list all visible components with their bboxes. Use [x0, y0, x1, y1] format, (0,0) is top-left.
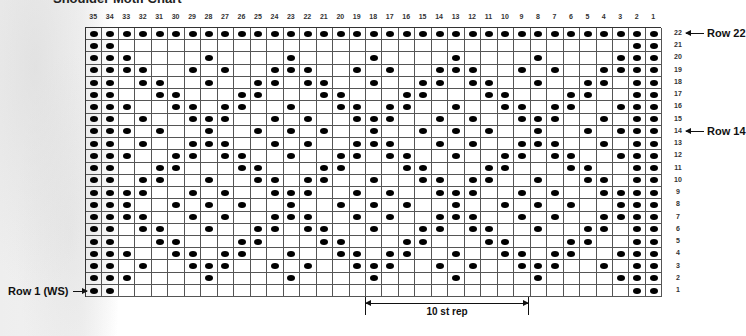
chart-cell: [580, 260, 596, 272]
chart-cell: [382, 212, 398, 224]
dot-icon: [106, 251, 114, 257]
chart-cell: [251, 28, 267, 40]
dot-icon: [287, 251, 295, 257]
chart-cell: [168, 114, 184, 126]
chart-cell: [498, 285, 514, 297]
chart-cell: [514, 248, 530, 260]
chart-cell: [415, 28, 431, 40]
dot-icon: [600, 67, 608, 73]
chart-cell: [415, 260, 431, 272]
chart-cell: [152, 28, 168, 40]
chart-cell: [432, 199, 448, 211]
chart-cell: [284, 187, 300, 199]
chart-cell: [514, 175, 530, 187]
chart-cell: [382, 114, 398, 126]
chart-cell: [317, 163, 333, 175]
chart-cell: [481, 187, 497, 199]
chart-cell: [350, 138, 366, 150]
row-14-callout: Row 14: [686, 125, 746, 137]
chart-cell: [86, 285, 102, 297]
dot-icon: [90, 165, 98, 171]
dot-icon: [304, 31, 312, 37]
dot-icon: [633, 288, 641, 294]
dot-icon: [205, 202, 213, 208]
chart-cell: [580, 175, 596, 187]
dot-icon: [205, 275, 213, 281]
chart-cell: [498, 77, 514, 89]
dot-icon: [633, 116, 641, 122]
chart-cell: [399, 248, 415, 260]
chart-cell: [547, 89, 563, 101]
chart-cell: [317, 150, 333, 162]
dot-icon: [518, 116, 526, 122]
chart-cell: [465, 236, 481, 248]
chart-cell: [481, 52, 497, 64]
chart-cell: [284, 224, 300, 236]
chart-cell: [613, 40, 629, 52]
dot-icon: [106, 202, 114, 208]
dot-icon: [304, 226, 312, 232]
chart-cell: [432, 138, 448, 150]
chart-cell: [234, 89, 250, 101]
chart-cell: [597, 28, 613, 40]
chart-cell: [135, 77, 151, 89]
dot-icon: [551, 141, 559, 147]
chart-cell: [267, 260, 283, 272]
dot-icon: [419, 226, 427, 232]
dot-icon: [139, 80, 147, 86]
chart-cell: [580, 248, 596, 260]
dot-icon: [123, 31, 131, 37]
dot-icon: [436, 177, 444, 183]
chart-cell: [218, 89, 234, 101]
chart-cell: [613, 260, 629, 272]
chart-cell: [350, 163, 366, 175]
dot-icon: [370, 177, 378, 183]
chart-cell: [366, 163, 382, 175]
chart-cell: [366, 187, 382, 199]
chart-cell: [201, 150, 217, 162]
chart-cell: [102, 199, 118, 211]
chart-cell: [564, 212, 580, 224]
chart-cell: [481, 65, 497, 77]
chart-cell: [201, 212, 217, 224]
row-number: 19: [670, 64, 686, 76]
dot-icon: [534, 263, 542, 269]
chart-cell: [300, 65, 316, 77]
chart-cell: [580, 77, 596, 89]
dot-icon: [106, 55, 114, 61]
dot-icon: [205, 55, 213, 61]
chart-cell: [415, 187, 431, 199]
chart-cell: [284, 89, 300, 101]
chart-cell: [86, 236, 102, 248]
chart-cell: [514, 273, 530, 285]
dot-icon: [90, 116, 98, 122]
dot-icon: [650, 31, 658, 37]
column-number: 11: [480, 13, 496, 20]
chart-cell: [317, 273, 333, 285]
dot-icon: [320, 92, 328, 98]
dot-icon: [567, 202, 575, 208]
chart-cell: [465, 260, 481, 272]
dot-icon: [650, 214, 658, 220]
chart-cell: [481, 175, 497, 187]
dot-icon: [469, 141, 477, 147]
dot-icon: [600, 214, 608, 220]
dot-icon: [650, 128, 658, 134]
column-number: 28: [200, 13, 216, 20]
dot-icon: [419, 177, 427, 183]
chart-cell: [597, 199, 613, 211]
chart-cell: [267, 126, 283, 138]
dot-icon: [551, 214, 559, 220]
chart-cell: [481, 199, 497, 211]
row-number: 22: [670, 27, 686, 39]
dot-icon: [90, 67, 98, 73]
knitting-chart-grid: [85, 27, 661, 297]
chart-cell: [498, 28, 514, 40]
column-number: 22: [299, 13, 315, 20]
chart-cell: [185, 273, 201, 285]
chart-cell: [415, 273, 431, 285]
chart-cell: [597, 248, 613, 260]
dot-icon: [90, 263, 98, 269]
dot-icon: [485, 239, 493, 245]
dot-icon: [633, 190, 641, 196]
